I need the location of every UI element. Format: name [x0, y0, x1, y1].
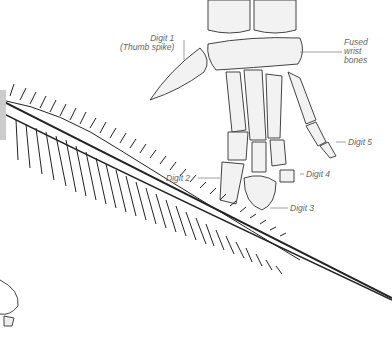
tail-vertebrae [0, 84, 392, 300]
label-fused-wrist-bones: Fused wrist bones [344, 38, 368, 65]
label-digit-5: Digit 5 [348, 138, 372, 147]
partial-bone-bottom-left [0, 280, 18, 326]
thumb-spike [150, 48, 207, 100]
label-digit-2: Digit 2 [166, 174, 190, 183]
digit-2-claw [220, 162, 244, 204]
label-fused-line3: bones [344, 56, 368, 65]
ulna-bone [254, 0, 296, 33]
label-digit-3: Digit 3 [290, 204, 314, 213]
label-digit-1: Digit 1 (Thumb spike) [120, 34, 174, 52]
label-digit-4: Digit 4 [306, 170, 330, 179]
label-digit-1-note: (Thumb spike) [120, 43, 174, 52]
skeleton-illustration [0, 0, 392, 337]
digit-3-claw [244, 176, 276, 210]
wrist-bones [208, 38, 303, 70]
radius-bone [208, 0, 250, 33]
left-edge-shadow [0, 90, 6, 140]
